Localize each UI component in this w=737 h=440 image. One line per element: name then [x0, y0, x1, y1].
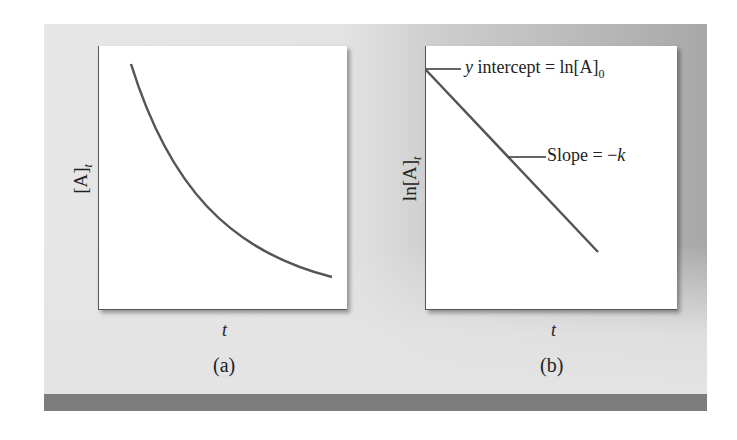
ylabel-b: ln[A]t	[399, 139, 425, 219]
decay-curve	[99, 46, 347, 309]
caption-a: (a)	[213, 354, 235, 377]
plot-a	[98, 46, 347, 310]
xlabel-b: t	[551, 320, 556, 341]
bottom-bar	[44, 394, 707, 411]
caption-b: (b)	[540, 354, 563, 377]
plot-b	[425, 46, 677, 310]
ylabel-a: [A]t	[70, 144, 96, 214]
xlabel-a: t	[222, 320, 227, 341]
slope-label: Slope = −k	[547, 145, 625, 166]
linear-plot	[426, 46, 677, 309]
y-intercept-label: y intercept = ln[A]0	[465, 57, 605, 82]
